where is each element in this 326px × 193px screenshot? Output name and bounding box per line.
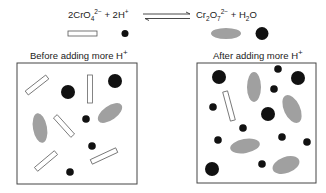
water-icon — [212, 70, 226, 84]
h-ion-icon — [66, 168, 74, 176]
h-ion-icon — [258, 160, 266, 168]
water-icon — [108, 74, 122, 88]
dichromate-icon — [247, 72, 261, 102]
panel-after — [197, 63, 316, 183]
h-ion-icon — [303, 138, 311, 146]
chromate-legend-icon — [68, 31, 97, 36]
water-legend-icon — [256, 27, 269, 40]
h-ion-legend-icon — [122, 30, 129, 37]
diagram-canvas — [0, 0, 326, 193]
water-icon — [61, 85, 75, 99]
panel-before — [17, 63, 137, 184]
h-ion-icon — [82, 115, 90, 123]
h-ion-icon — [278, 133, 286, 141]
h-ion-icon — [274, 65, 282, 73]
water-icon — [291, 71, 305, 85]
water-icon — [205, 162, 219, 176]
h-ion-icon — [214, 136, 222, 144]
equilibrium-arrow-icon — [143, 12, 190, 21]
dichromate-legend-icon — [211, 28, 241, 39]
h-ion-icon — [209, 103, 217, 111]
h-ion-icon — [239, 124, 247, 132]
chromate-icon — [88, 75, 93, 103]
h-ion-icon — [270, 85, 278, 93]
h-ion-icon — [88, 142, 96, 150]
water-icon — [261, 107, 275, 121]
